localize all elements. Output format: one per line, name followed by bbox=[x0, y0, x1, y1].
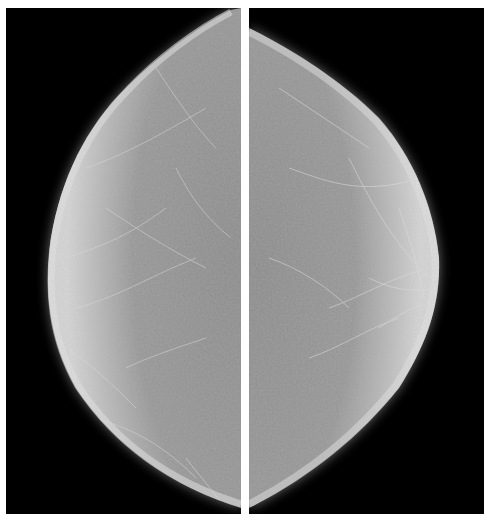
left-mammogram-panel bbox=[6, 8, 241, 514]
mammogram-figure bbox=[0, 0, 492, 528]
left-breast-radiograph bbox=[6, 8, 241, 514]
center-divider bbox=[241, 0, 249, 528]
right-breast-radiograph bbox=[249, 8, 484, 514]
right-mammogram-panel bbox=[249, 8, 484, 514]
